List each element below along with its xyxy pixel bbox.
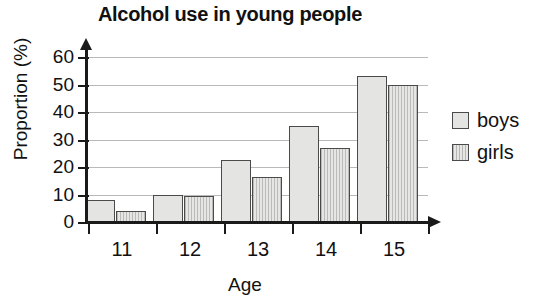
bar-chart-figure: Alcohol use in young people Proportion (… — [0, 0, 545, 308]
gridline — [88, 57, 428, 58]
y-tick-mark — [78, 57, 89, 59]
legend-swatch-boys-icon — [452, 112, 469, 129]
legend-item-girls[interactable]: girls — [452, 136, 519, 168]
y-tick-label: 20 — [38, 157, 74, 176]
y-axis-title: Proportion (%) — [10, 24, 32, 174]
x-tick-label-13: 13 — [228, 238, 288, 261]
y-tick-mark — [78, 112, 89, 114]
y-tick-label: 10 — [38, 185, 74, 204]
x-tick-mark — [360, 224, 362, 234]
y-axis-line — [85, 48, 88, 223]
bar-girls-12 — [184, 196, 214, 222]
bar-boys-14 — [289, 126, 319, 222]
bar-boys-12 — [153, 195, 183, 223]
bar-boys-11 — [85, 200, 115, 222]
y-tick-label: 40 — [38, 102, 74, 121]
x-tick-label-15: 15 — [364, 238, 424, 261]
bar-girls-15 — [388, 85, 418, 223]
bar-boys-15 — [357, 76, 387, 222]
x-axis-line — [85, 221, 430, 224]
bar-girls-14 — [320, 148, 350, 222]
y-tick-label-group: 0102030405060 — [32, 0, 74, 308]
x-tick-label-14: 14 — [296, 238, 356, 261]
x-tick-mark — [224, 224, 226, 234]
x-tick-mark — [428, 224, 430, 234]
legend-label: girls — [477, 141, 514, 164]
plot-area — [88, 57, 428, 222]
y-tick-label: 60 — [38, 47, 74, 66]
y-tick-mark — [78, 167, 89, 169]
x-tick-mark — [156, 224, 158, 234]
y-tick-label: 30 — [38, 130, 74, 149]
y-axis-arrow-icon — [80, 38, 92, 50]
x-axis-title: Age — [75, 274, 415, 296]
y-tick-mark — [78, 85, 89, 87]
bar-boys-13 — [221, 160, 251, 222]
x-tick-mark — [88, 224, 90, 234]
y-tick-label: 0 — [38, 212, 74, 231]
bar-girls-13 — [252, 177, 282, 222]
y-tick-label: 50 — [38, 75, 74, 94]
legend-item-boys[interactable]: boys — [452, 104, 519, 136]
legend-swatch-girls-icon — [452, 144, 469, 161]
x-tick-mark — [292, 224, 294, 234]
y-tick-mark — [78, 195, 89, 197]
legend-label: boys — [477, 109, 519, 132]
x-tick-label-11: 11 — [92, 238, 152, 261]
legend: boysgirls — [452, 104, 519, 168]
x-tick-label-12: 12 — [160, 238, 220, 261]
y-tick-mark — [78, 140, 89, 142]
